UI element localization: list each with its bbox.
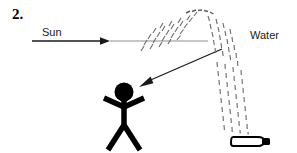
water-label: Water bbox=[250, 29, 279, 41]
reflected-ray-arrow bbox=[139, 49, 222, 87]
spray-column bbox=[225, 64, 232, 132]
water-spray-arc-right bbox=[208, 16, 238, 66]
sun-ray-arrowhead-icon bbox=[100, 37, 110, 45]
water-spray-arc-left bbox=[141, 12, 197, 51]
spray-column bbox=[217, 62, 224, 130]
spray-bottle bbox=[231, 137, 270, 146]
person-right-leg bbox=[124, 125, 140, 150]
water-spray-vertical-stream bbox=[217, 62, 248, 135]
sun-label: Sun bbox=[42, 26, 62, 38]
stick-figure-person bbox=[104, 83, 144, 151]
bottle-body bbox=[231, 137, 264, 146]
reflected-ray-line bbox=[146, 49, 222, 82]
spray-column bbox=[241, 70, 248, 135]
sun-ray-arrow bbox=[32, 37, 208, 45]
diagram-canvas: 2. Sun Water bbox=[0, 0, 297, 153]
reflected-ray-arrowhead-icon bbox=[139, 76, 153, 87]
spray-column bbox=[233, 67, 240, 134]
physics-diagram-figure: 2. Sun Water bbox=[0, 0, 297, 153]
bottle-nozzle bbox=[262, 138, 270, 145]
water-spray-arc-apex bbox=[186, 10, 214, 14]
person-head bbox=[115, 83, 134, 102]
person-left-leg bbox=[108, 125, 124, 150]
item-number-label: 2. bbox=[12, 6, 24, 22]
